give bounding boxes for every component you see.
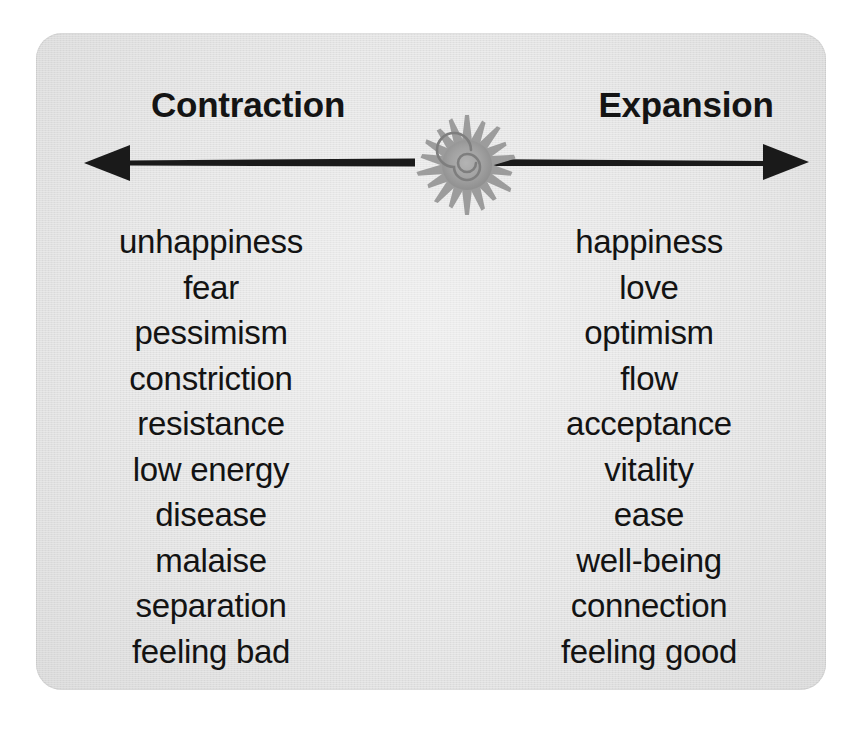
word-item: fear <box>46 265 376 311</box>
diagram-panel: Contraction Expansion <box>36 33 826 690</box>
axis-shaft-right <box>490 159 774 166</box>
word-item: resistance <box>46 401 376 447</box>
word-item: pessimism <box>46 310 376 356</box>
word-item: optimism <box>484 310 814 356</box>
word-item: connection <box>484 583 814 629</box>
word-item: feeling good <box>484 629 814 675</box>
word-item: well-being <box>484 538 814 584</box>
word-item: low energy <box>46 447 376 493</box>
contraction-expansion-axis <box>82 133 822 195</box>
arrow-left-icon <box>84 145 130 181</box>
word-item: unhappiness <box>46 219 376 265</box>
word-item: constriction <box>46 356 376 402</box>
word-item: happiness <box>484 219 814 265</box>
word-item: ease <box>484 492 814 538</box>
word-item: malaise <box>46 538 376 584</box>
word-columns: unhappiness fear pessimism constriction … <box>36 219 826 674</box>
word-item: feeling bad <box>46 629 376 675</box>
word-item: disease <box>46 492 376 538</box>
word-item: acceptance <box>484 401 814 447</box>
axis-shaft-left <box>127 159 415 167</box>
word-item: separation <box>46 583 376 629</box>
arrow-right-icon <box>763 144 809 180</box>
expansion-word-list: happiness love optimism flow acceptance … <box>484 219 814 674</box>
word-item: flow <box>484 356 814 402</box>
heading-expansion: Expansion <box>536 85 826 125</box>
word-item: love <box>484 265 814 311</box>
heading-contraction: Contraction <box>98 85 398 125</box>
contraction-word-list: unhappiness fear pessimism constriction … <box>46 219 376 674</box>
figure-stage: Contraction Expansion <box>0 0 862 739</box>
word-item: vitality <box>484 447 814 493</box>
